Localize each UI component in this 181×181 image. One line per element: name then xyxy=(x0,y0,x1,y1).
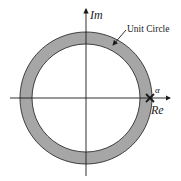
unit-circle-label: Unit Circle xyxy=(127,24,169,34)
pole-alpha-label: α xyxy=(155,85,160,95)
imag-axis-label: Im xyxy=(89,8,103,22)
real-axis-label: Re xyxy=(150,103,164,117)
z-plane-diagram: Im Re Unit Circle α xyxy=(0,0,181,181)
